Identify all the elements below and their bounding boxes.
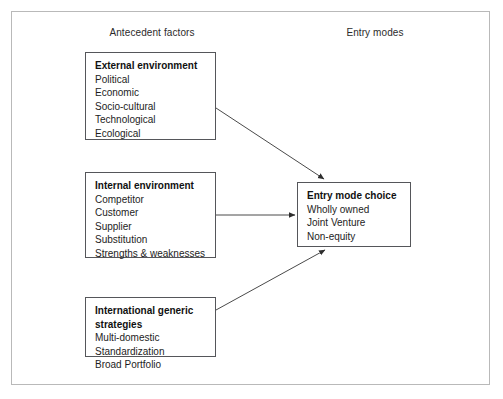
node-item: Broad Portfolio xyxy=(95,358,215,372)
node-entry-mode-choice[interactable]: Entry mode choice Wholly owned Joint Ven… xyxy=(297,182,411,247)
node-internal-environment[interactable]: Internal environment Competitor Customer… xyxy=(85,172,216,258)
node-item: Strengths & weaknesses xyxy=(95,247,215,261)
node-item: Political xyxy=(95,73,215,87)
node-item: Socio-cultural xyxy=(95,100,215,114)
node-item: Multi-domestic xyxy=(95,331,215,345)
node-item: Substitution xyxy=(95,233,215,247)
node-international-generic-strategies[interactable]: International generic strategies Multi-d… xyxy=(85,297,216,357)
node-item: Economic xyxy=(95,86,215,100)
node-item: Customer xyxy=(95,206,215,220)
diagram-outer-frame xyxy=(11,11,490,385)
node-title: Internal environment xyxy=(95,179,215,193)
node-item: Joint Venture xyxy=(307,216,410,230)
node-external-environment[interactable]: External environment Political Economic … xyxy=(85,52,216,140)
node-item: Supplier xyxy=(95,220,215,234)
column-header-antecedent-factors: Antecedent factors xyxy=(109,27,194,38)
node-item: Technological xyxy=(95,113,215,127)
column-header-entry-modes: Entry modes xyxy=(346,27,403,38)
node-title: International generic strategies xyxy=(95,304,200,331)
node-title: Entry mode choice xyxy=(307,189,410,203)
node-item: Standardization xyxy=(95,345,215,359)
diagram-canvas: Antecedent factors Entry modes External … xyxy=(0,0,503,399)
node-item: Non-equity xyxy=(307,230,410,244)
node-item: Wholly owned xyxy=(307,203,410,217)
node-item: Competitor xyxy=(95,193,215,207)
node-title: External environment xyxy=(95,59,215,73)
node-item: Ecological xyxy=(95,127,215,141)
